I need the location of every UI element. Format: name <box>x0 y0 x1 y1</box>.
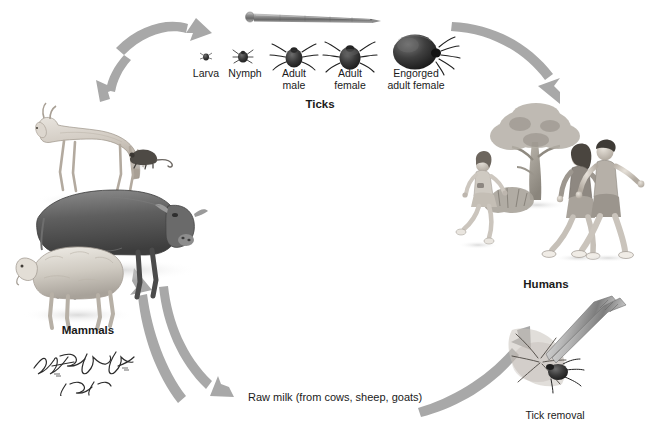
tick-larva <box>200 53 212 60</box>
nail-scale-reference <box>246 12 382 23</box>
group-heading-ticks: Ticks <box>290 98 350 110</box>
mammal-sheep <box>16 247 134 329</box>
tick-stage-label-adult-female-line1: Adult <box>326 68 374 79</box>
tick-stage-label-engorged-line2: adult female <box>380 80 452 91</box>
artist-signature <box>30 348 180 396</box>
tick-removal-detail <box>509 296 626 393</box>
pathway-label-raw-milk: Raw milk (from cows, sheep, goats) <box>248 392 422 404</box>
tick-nymph <box>233 50 253 63</box>
tick-stage-label-engorged-line1: Engorged <box>380 68 452 79</box>
tick-stage-label-nymph: Nymph <box>224 68 266 79</box>
tick-stage-label-larva: Larva <box>186 68 226 79</box>
group-heading-mammals: Mammals <box>48 324 128 336</box>
tick-stage-label-adult-male-line2: male <box>272 80 316 91</box>
tick-stage-label-adult-female-line2: female <box>326 80 374 91</box>
tick-stage-label-adult-male-line1: Adult <box>272 68 316 79</box>
group-heading-tick-removal: Tick removal <box>512 410 598 421</box>
illustration-canvas: Larva Nymph Adult male Adult female Engo… <box>0 0 655 433</box>
group-heading-humans: Humans <box>515 278 577 290</box>
